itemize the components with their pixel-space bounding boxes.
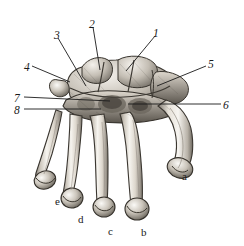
figure-label-d: d	[78, 214, 84, 225]
articular-hollow-right-inner	[132, 101, 148, 111]
figure-label-2: 2	[89, 19, 95, 31]
metacarpal-b	[120, 112, 149, 220]
figure-label-b: b	[141, 227, 147, 238]
metacarpal-e-shaft	[36, 110, 62, 180]
figure-label-3: 3	[54, 30, 60, 42]
figure-label-6: 6	[223, 100, 229, 112]
carpal-knob-pisiform	[49, 80, 69, 97]
bone-illustration	[0, 0, 244, 246]
figure-label-1: 1	[153, 28, 159, 40]
figure-label-8: 8	[14, 105, 20, 117]
metacarpal-e	[32, 110, 62, 192]
anatomical-figure: 12345678 abcde	[0, 0, 244, 246]
articular-hollow-central-inner	[102, 97, 122, 109]
figure-label-a: a	[182, 171, 187, 182]
metacarpal-c-shaft	[90, 114, 108, 208]
figure-label-c: c	[108, 226, 113, 237]
leader-line-4	[32, 66, 70, 82]
figure-label-5: 5	[208, 59, 214, 71]
metacarpal-d	[59, 114, 84, 210]
figure-label-4: 4	[24, 62, 30, 74]
figure-label-7: 7	[14, 93, 20, 105]
metacarpal-c	[90, 114, 115, 217]
figure-label-e: e	[55, 196, 60, 207]
